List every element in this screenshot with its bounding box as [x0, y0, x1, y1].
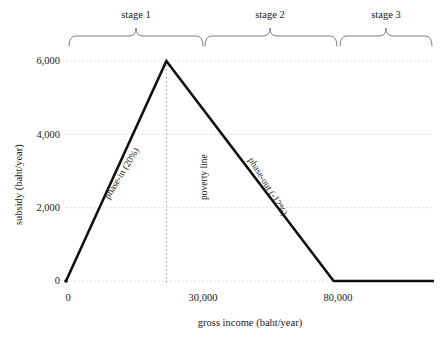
stage-3-label: stage 3	[371, 10, 400, 21]
stage-1-label: stage 1	[121, 10, 150, 21]
x-axis-title: gross income (baht/year)	[198, 318, 302, 329]
x-tick-30000: 30,000	[189, 293, 218, 304]
brace-stage-3	[340, 28, 432, 46]
chart-canvas	[0, 0, 440, 340]
y-tick-0: 0	[18, 276, 60, 287]
y-axis-title: subsidy (baht/year)	[14, 144, 25, 225]
y-tick-4000: 4,000	[18, 130, 60, 141]
x-tick-0: 0	[65, 293, 70, 304]
y-tick-6000: 6,000	[18, 56, 60, 67]
stage-braces	[69, 28, 432, 46]
x-tick-80000: 80,000	[324, 293, 353, 304]
chart-figure: stage 1 stage 2 stage 3 6,000 4,000 2,00…	[0, 0, 440, 340]
brace-stage-2	[205, 28, 337, 46]
stage-2-label: stage 2	[255, 10, 284, 21]
brace-stage-1	[69, 28, 203, 46]
poverty-line-annotation: poverty line	[200, 154, 210, 200]
series-start-point	[64, 279, 68, 283]
